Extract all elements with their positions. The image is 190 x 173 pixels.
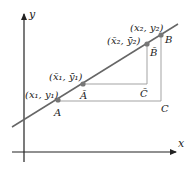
coord-label-b: (x₂, y₂) xyxy=(130,22,164,33)
label-c: C xyxy=(161,103,169,114)
label-a: A xyxy=(53,107,61,118)
label-a-bar: Ā xyxy=(79,90,87,101)
coord-label-a: (x₁, y₁) xyxy=(25,89,59,100)
x-axis-label: x xyxy=(178,137,185,150)
slope-diagram: y x A Ā B̄ B C C̄ (x₁, y₁) (x̄₁, ȳ₁) (x… xyxy=(0,0,190,173)
point-b xyxy=(158,32,163,37)
coord-label-a-bar: (x̄₁, ȳ₁) xyxy=(49,71,83,82)
y-axis-label: y xyxy=(28,8,36,21)
label-b-bar: B̄ xyxy=(149,47,157,58)
point-b-bar xyxy=(144,41,149,46)
coord-label-b-bar: (x̄₂, ȳ₂) xyxy=(107,35,141,46)
label-c-bar: C̄ xyxy=(140,88,148,99)
main-line xyxy=(12,24,178,127)
point-a-bar xyxy=(80,81,85,86)
label-b: B xyxy=(164,34,172,45)
